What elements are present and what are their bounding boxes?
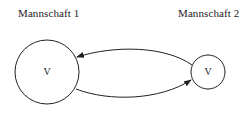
team2-node: V (191, 55, 225, 89)
diagram-canvas: V V (0, 0, 247, 115)
edge-team1-to-team2 (76, 80, 191, 97)
team1-node: V (15, 40, 79, 104)
team2-symbol: V (204, 66, 212, 77)
edge-team2-to-team1 (77, 49, 192, 65)
team1-symbol: V (43, 66, 51, 77)
